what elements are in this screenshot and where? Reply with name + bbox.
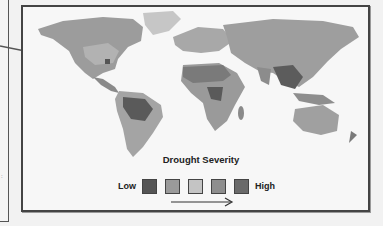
left-panel-mark: : [1, 173, 4, 179]
drought-legend: Low High [118, 178, 275, 194]
legend-swatch-5 [234, 179, 249, 194]
legend-swatch-3 [188, 179, 203, 194]
legend-swatch-2 [165, 179, 180, 194]
legend-swatch-1 [142, 179, 157, 194]
legend-title: Drought Severity [141, 154, 261, 165]
legend-swatch-4 [211, 179, 226, 194]
world-drought-map: Drought Severity Low High [21, 5, 370, 212]
legend-high-label: High [255, 181, 275, 191]
legend-low-label: Low [118, 181, 136, 191]
arrow-right-icon [171, 197, 235, 207]
